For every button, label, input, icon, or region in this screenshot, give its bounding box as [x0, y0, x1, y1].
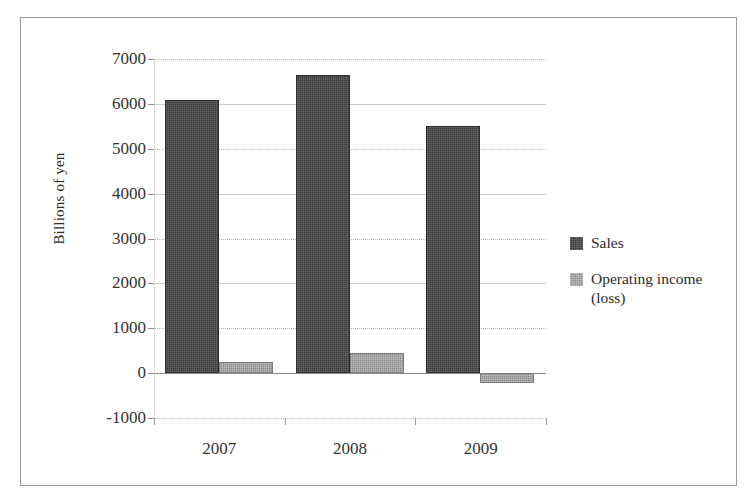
bar-group [285, 59, 416, 418]
legend-swatch-icon [570, 273, 583, 286]
figure-frame: Billions of yen 700060005000400030002000… [20, 17, 737, 486]
y-axis-tick-label: -1000 [80, 408, 146, 428]
x-axis-tick-label: 2009 [421, 439, 541, 459]
y-axis-title: Billions of yen [51, 119, 68, 279]
y-axis-tick-label: 6000 [80, 94, 146, 114]
bar-operating-income-2008 [350, 353, 404, 373]
bar-sales-2009 [426, 126, 480, 373]
y-axis-tick-label: 5000 [80, 139, 146, 159]
legend-swatch-icon [570, 237, 583, 250]
x-axis-tick-mark [415, 418, 416, 425]
x-axis-tick-label: 2008 [290, 439, 410, 459]
bar-operating-income-2007 [219, 362, 273, 373]
bar-sales-2008 [296, 75, 350, 373]
y-axis-tick-label: 2000 [80, 273, 146, 293]
bar-sales-2007 [165, 100, 219, 373]
legend-item-label: Operating income (loss) [591, 269, 730, 307]
y-axis-tick-label: 1000 [80, 318, 146, 338]
x-axis-tick-label: 2007 [159, 439, 279, 459]
y-axis-tick-label: 7000 [80, 49, 146, 69]
x-axis-tick-mark [546, 418, 547, 425]
gridline [154, 418, 546, 419]
bar-group [154, 59, 285, 418]
bar-operating-income-2009 [480, 373, 534, 383]
legend-item-label: Sales [591, 233, 624, 252]
bar-group [415, 59, 546, 418]
legend-item-sales: Sales [570, 233, 730, 252]
x-axis-tick-mark [154, 418, 155, 425]
y-axis-tick-label: 0 [80, 363, 146, 383]
x-axis-tick-mark [285, 418, 286, 425]
plot-area: 70006000500040003000200010000-1000 20072… [154, 59, 546, 418]
chart-legend: SalesOperating income (loss) [570, 233, 730, 324]
y-axis-tick-label: 4000 [80, 184, 146, 204]
legend-item-operating-income: Operating income (loss) [570, 269, 730, 307]
bar-chart: Billions of yen 700060005000400030002000… [21, 18, 738, 487]
y-axis-tick-label: 3000 [80, 229, 146, 249]
